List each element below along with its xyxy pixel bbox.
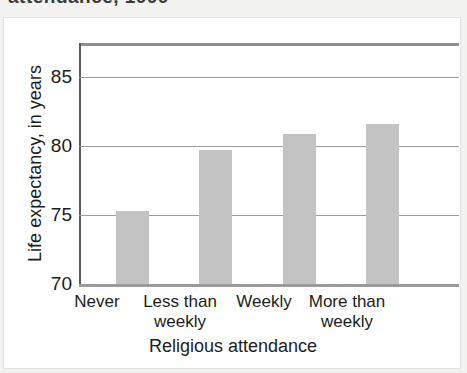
- chart-figure: Life expectancy, in years 70 75 80 85 Ne…: [3, 17, 461, 369]
- y-tick-75: 75: [51, 204, 72, 226]
- gridline-80: [79, 146, 459, 147]
- x-axis-line: [79, 284, 459, 287]
- x-category-more-than-weekly-line1: More than: [292, 292, 402, 312]
- x-category-less-than-weekly-line2: weekly: [125, 312, 235, 332]
- bar-more-than-weekly: [366, 124, 399, 284]
- y-axis-tick-labels: 70 75 80 85: [4, 43, 72, 287]
- gridline-85: [79, 77, 459, 78]
- bar-never: [116, 211, 149, 284]
- cropped-title-strip: attendance, 1999: [0, 0, 467, 16]
- x-category-more-than-weekly-line2: weekly: [292, 312, 402, 332]
- y-axis-line: [79, 43, 81, 287]
- x-axis-title: Religious attendance: [4, 336, 461, 357]
- plot-top-border: [79, 43, 459, 46]
- cropped-title-text: attendance, 1999: [8, 0, 169, 8]
- plot-area: [79, 43, 459, 287]
- bar-less-than-weekly: [199, 150, 232, 284]
- x-category-more-than-weekly: More than weekly: [292, 292, 402, 332]
- bar-weekly: [283, 134, 316, 284]
- y-tick-85: 85: [51, 66, 72, 88]
- y-tick-80: 80: [51, 135, 72, 157]
